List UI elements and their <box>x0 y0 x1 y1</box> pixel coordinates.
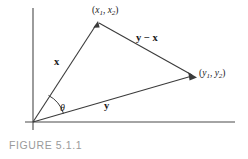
point-y-sub1: 1 <box>206 72 210 80</box>
point-x-close-paren: ) <box>115 5 118 15</box>
point-label-x: (x1, x2) <box>92 6 119 16</box>
figure-container: (x1, x2) (y1, y2) x y y − x θ FIGURE 5.1… <box>0 0 248 159</box>
vector-diagram <box>0 0 248 159</box>
point-x-sub2: 2 <box>112 9 116 17</box>
vector-y-line <box>33 76 192 122</box>
vector-y-minus-x-line <box>99 23 192 75</box>
point-x-sub1: 1 <box>99 9 103 17</box>
vector-y-arrowhead <box>188 72 197 80</box>
vector-label-y: y <box>104 101 109 112</box>
vector-x-arrowhead <box>93 21 99 28</box>
angle-label-theta: θ <box>60 103 65 113</box>
point-y-sub2: 2 <box>219 72 223 80</box>
vector-label-x: x <box>54 57 59 68</box>
minus-operator: − <box>141 32 152 43</box>
point-label-y: (y1, y2) <box>199 69 226 79</box>
vector-label-ymx-right: x <box>152 32 157 43</box>
figure-caption: FIGURE 5.1.1 <box>9 139 82 151</box>
vector-label-y-minus-x: y − x <box>136 33 158 44</box>
point-y-close-paren: ) <box>222 68 225 78</box>
